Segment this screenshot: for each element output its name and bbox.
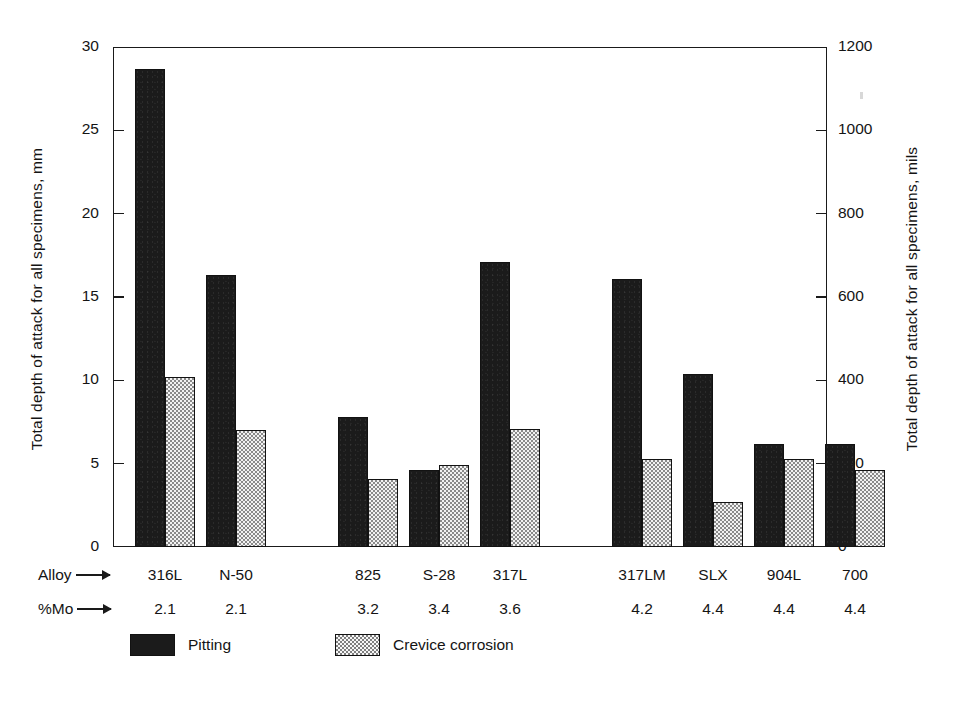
bar-crevice: [713, 502, 743, 547]
percent-mo-label: 4.4: [844, 600, 866, 618]
alloy-label: 700: [842, 566, 868, 584]
bar-crevice: [855, 470, 885, 547]
bar-crevice: [784, 459, 814, 547]
y-tick-label-right: 600: [838, 287, 958, 305]
y-tick-left: [113, 213, 124, 215]
bar-pitting: [612, 279, 642, 547]
bar-pitting: [754, 444, 784, 547]
alloy-label: 825: [355, 566, 381, 584]
y-tick-label-right: 400: [838, 370, 958, 388]
y-tick-left: [113, 463, 124, 465]
alloy-label: 904L: [767, 566, 801, 584]
y-tick-label-left: 20: [0, 204, 99, 222]
percent-mo-label: 4.4: [702, 600, 724, 618]
y-tick-label-left: 15: [0, 287, 99, 305]
percent-mo-label: 2.1: [154, 600, 176, 618]
y-tick-right: [816, 380, 827, 382]
bar-pitting: [409, 470, 439, 547]
alloy-label: 317L: [493, 566, 527, 584]
bar-pitting: [206, 275, 236, 547]
percent-mo-label: 2.1: [225, 600, 247, 618]
page-speck: [860, 92, 863, 99]
bar-pitting: [683, 374, 713, 547]
percent-mo-label: 3.2: [357, 600, 379, 618]
y-tick-label-right: 200: [838, 454, 958, 472]
y-tick-label-left: 10: [0, 370, 99, 388]
y-tick-left: [113, 130, 124, 132]
y-tick-label-left: 0: [0, 537, 99, 555]
bar-crevice: [368, 479, 398, 547]
bar-crevice: [510, 429, 540, 547]
y-tick-label-left: 5: [0, 454, 99, 472]
y-tick-label-left: 30: [0, 37, 99, 55]
chart-figure: Total depth of attack for all specimens,…: [0, 0, 979, 704]
y-tick-left: [113, 380, 124, 382]
bar-crevice: [642, 459, 672, 547]
y-tick-right: [816, 213, 827, 215]
bar-pitting: [480, 262, 510, 547]
bar-crevice: [236, 430, 266, 547]
alloy-row-key: Alloy: [38, 566, 110, 584]
y-tick-label-right: 1000: [838, 120, 958, 138]
percent-mo-label: 3.4: [428, 600, 450, 618]
legend-item-crevice: Crevice corrosion: [335, 634, 514, 656]
alloy-label: N-50: [219, 566, 253, 584]
alloy-label: SLX: [698, 566, 727, 584]
bar-pitting: [135, 69, 165, 547]
chart-legend: Pitting Crevice corrosion: [130, 634, 514, 656]
alloy-label: 316L: [148, 566, 182, 584]
y-tick-label-right: 1200: [838, 37, 958, 55]
percent-mo-label: 4.2: [631, 600, 653, 618]
y-tick-label-right: 800: [838, 204, 958, 222]
y-tick-right: [816, 130, 827, 132]
alloy-arrow-icon: [76, 574, 110, 576]
percent-mo-row-key: %Mo: [38, 600, 111, 618]
bar-crevice: [165, 377, 195, 547]
y-tick-right: [816, 296, 827, 298]
bar-pitting: [825, 444, 855, 547]
y-tick-label-left: 25: [0, 120, 99, 138]
alloy-row-label: Alloy: [38, 566, 72, 584]
alloy-label: 317LM: [618, 566, 665, 584]
legend-item-pitting: Pitting: [130, 634, 231, 656]
legend-label-pitting: Pitting: [188, 636, 231, 654]
bar-crevice: [439, 465, 469, 547]
percent-mo-row-label: %Mo: [38, 600, 73, 618]
alloy-label: S-28: [423, 566, 456, 584]
percent-mo-arrow-icon: [77, 608, 111, 610]
pitting-swatch-icon: [130, 634, 175, 656]
legend-label-crevice: Crevice corrosion: [393, 636, 514, 654]
crevice-swatch-icon: [335, 634, 380, 656]
percent-mo-label: 4.4: [773, 600, 795, 618]
bar-pitting: [338, 417, 368, 547]
y-tick-left: [113, 296, 124, 298]
percent-mo-label: 3.6: [499, 600, 521, 618]
